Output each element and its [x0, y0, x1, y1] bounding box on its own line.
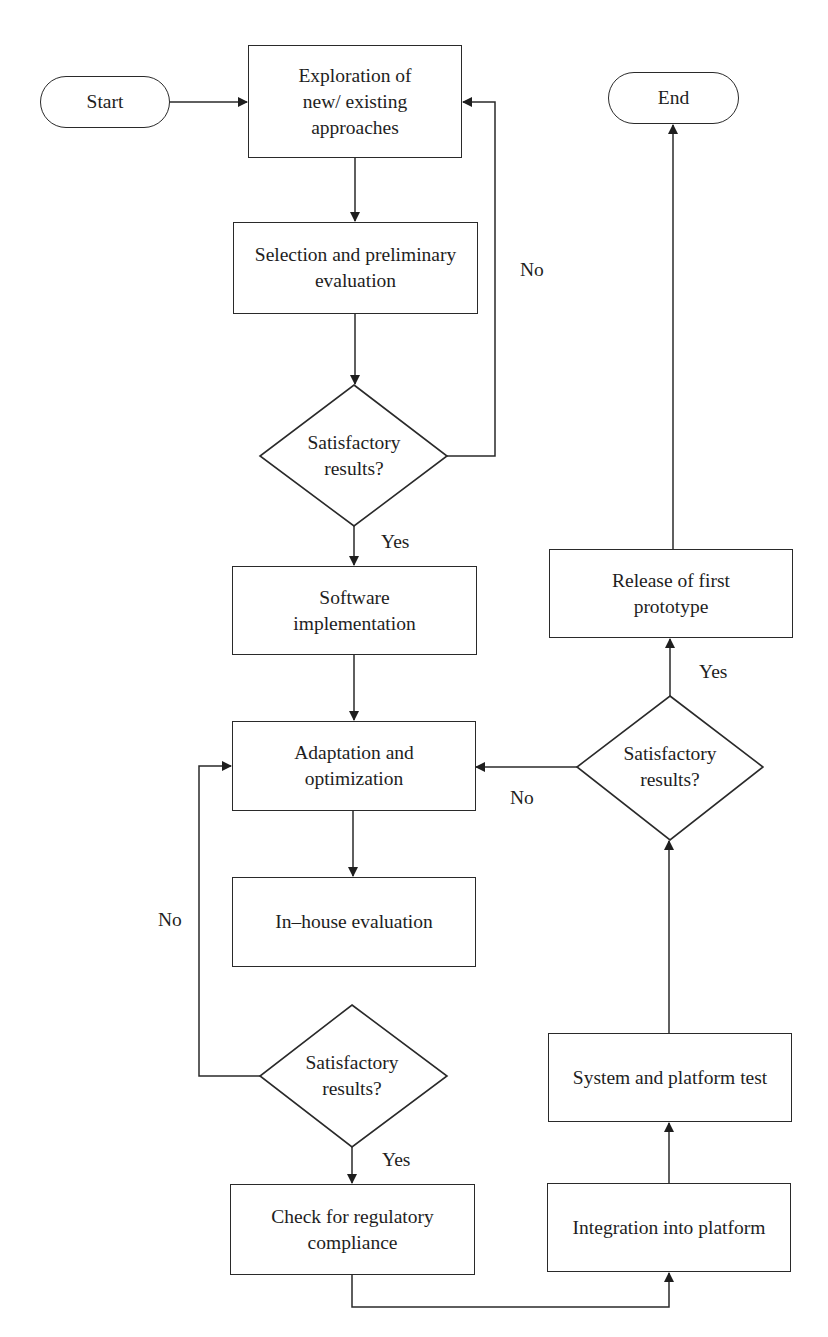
decision2-no-label: No [158, 909, 182, 931]
software-implementation-box[interactable]: Software implementation [232, 566, 477, 655]
decision3-label: Satisfactory results? [606, 741, 734, 793]
exploration-box[interactable]: Exploration of new/ existing approaches [248, 45, 462, 158]
system-test-box[interactable]: System and platform test [548, 1033, 792, 1122]
software-implementation-label: Software implementation [283, 585, 426, 637]
flowchart-canvas: Start End Exploration of new/ existing a… [0, 0, 828, 1337]
inhouse-evaluation-box[interactable]: In–house evaluation [232, 877, 476, 967]
adaptation-box[interactable]: Adaptation and optimization [232, 721, 476, 811]
decision3-no-label: No [510, 787, 534, 809]
end-label: End [658, 85, 689, 111]
inhouse-evaluation-label: In–house evaluation [275, 909, 433, 935]
exploration-label: Exploration of new/ existing approaches [279, 63, 431, 141]
system-test-label: System and platform test [573, 1065, 767, 1091]
end-terminal[interactable]: End [608, 72, 739, 124]
regulatory-compliance-box[interactable]: Check for regulatory compliance [230, 1184, 475, 1275]
decision1[interactable]: Satisfactory results? [290, 426, 418, 486]
start-label: Start [87, 89, 124, 115]
decision3-yes-label: Yes [699, 661, 727, 683]
edge-regulatory-to-integration [352, 1273, 669, 1307]
integration-box[interactable]: Integration into platform [547, 1183, 791, 1272]
decision1-no-label: No [520, 259, 544, 281]
selection-box[interactable]: Selection and preliminary evaluation [233, 222, 478, 314]
decision1-label: Satisfactory results? [290, 430, 418, 482]
start-terminal[interactable]: Start [40, 76, 170, 128]
release-label: Release of first prototype [600, 568, 742, 620]
adaptation-label: Adaptation and optimization [283, 740, 425, 792]
decision2-yes-label: Yes [382, 1149, 410, 1171]
integration-label: Integration into platform [573, 1215, 766, 1241]
decision1-yes-label: Yes [381, 531, 409, 553]
selection-label: Selection and preliminary evaluation [246, 242, 465, 294]
decision2-label: Satisfactory results? [288, 1050, 416, 1102]
release-box[interactable]: Release of first prototype [549, 549, 793, 638]
decision3[interactable]: Satisfactory results? [606, 737, 734, 797]
decision2[interactable]: Satisfactory results? [288, 1046, 416, 1106]
regulatory-compliance-label: Check for regulatory compliance [249, 1204, 456, 1256]
